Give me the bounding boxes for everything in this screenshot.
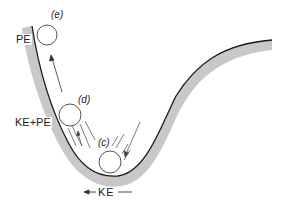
- arrow-up-icon: [50, 55, 63, 92]
- ke-label: KE: [98, 187, 115, 198]
- ball-e-label: (e): [51, 10, 63, 20]
- ball-d-label: (d): [78, 95, 90, 105]
- ball-e: [37, 25, 57, 45]
- track-band: [22, 26, 272, 187]
- ball-c: [99, 151, 121, 173]
- ball-c-label: (c): [98, 138, 110, 148]
- energy-valley-diagram: [0, 0, 284, 207]
- ball-d: [59, 104, 81, 126]
- ke-pe-label: KE+PE: [14, 117, 52, 128]
- pe-label: PE: [15, 34, 32, 45]
